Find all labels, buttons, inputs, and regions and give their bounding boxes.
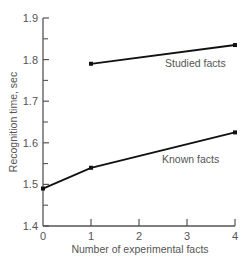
studied-facts-label: Studied facts [165,57,226,69]
y-tick-label: 1.4 [23,220,38,232]
x-tick-label: 1 [88,230,94,242]
y-tick-label: 1.8 [23,54,38,66]
data-point-marker [233,43,237,47]
known-facts-label: Known facts [162,153,219,165]
y-tick-label: 1.9 [23,12,38,24]
axes: 1.41.51.61.71.81.901234 [23,12,238,242]
x-tick-label: 4 [232,230,238,242]
data-point-marker [89,166,93,170]
x-tick-label: 0 [40,230,46,242]
y-axis-label: Recognition time, sec [7,72,19,172]
y-tick-label: 1.7 [23,95,38,107]
y-tick-label: 1.6 [23,137,38,149]
line-chart: 1.41.51.61.71.81.901234 Number of experi… [0,0,251,266]
x-tick-label: 2 [136,230,142,242]
x-tick-label: 3 [184,230,190,242]
y-tick-label: 1.5 [23,178,38,190]
data-point-marker [233,130,237,134]
data-point-marker [89,62,93,66]
data-point-marker [41,187,45,191]
x-axis-label: Number of experimental facts [71,243,208,255]
